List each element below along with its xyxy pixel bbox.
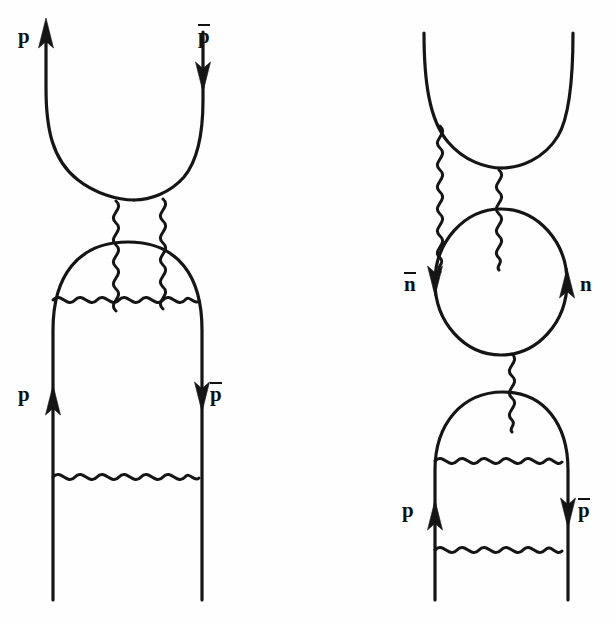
left-upper-u-right-fermion-line: [134, 32, 203, 200]
boson-vertical-right-diagram-right: [496, 170, 501, 270]
right-diagram: [424, 33, 576, 600]
boson-horizontal-lower-right-diagram: [435, 547, 562, 552]
label-nbar-loop-left: n: [404, 272, 416, 295]
label-pbar-top-right-text: p: [198, 24, 210, 47]
label-p-bottom-left-right-diagram: p: [402, 500, 414, 521]
boson-horizontal-upper-right-diagram: [435, 458, 562, 463]
boson-vertical-left: [113, 201, 118, 311]
boson-horizontal-upper-left-diagram: [53, 297, 199, 302]
label-pbar-bottom-right: p: [210, 382, 222, 405]
boson-vertical-right: [160, 199, 165, 309]
right-lower-dome-arch: [435, 392, 568, 600]
label-pbar-top-right: p: [198, 24, 210, 47]
label-p-bottom-left-text: p: [18, 382, 30, 406]
label-p-bottom-left-right-diagram-text: p: [402, 498, 414, 522]
left-diagram: [39, 18, 211, 600]
left-lower-dome-arch: [53, 242, 202, 600]
label-nbar-loop-left-text: n: [404, 272, 416, 295]
label-p-top-left-text: p: [18, 24, 30, 48]
right-top-u-left-fermion-line: [424, 33, 502, 168]
boson-horizontal-lower-left-diagram: [53, 474, 199, 479]
label-p-bottom-left: p: [18, 384, 30, 405]
label-n-loop-right: n: [580, 274, 592, 295]
label-p-top-left: p: [18, 26, 30, 47]
label-pbar-bottom-right-right-diagram-text: p: [578, 498, 590, 521]
label-n-loop-right-text: n: [580, 272, 592, 296]
label-pbar-bottom-right-right-diagram: p: [578, 498, 590, 521]
label-pbar-bottom-right-text: p: [210, 382, 222, 405]
feynman-figure: p p p p n n p p: [0, 0, 616, 623]
diagram-canvas: [0, 0, 616, 623]
left-upper-u-fermion-line: [46, 32, 134, 200]
right-top-u-right-fermion-line: [502, 33, 573, 168]
neutron-antineutron-loop: [435, 209, 567, 355]
